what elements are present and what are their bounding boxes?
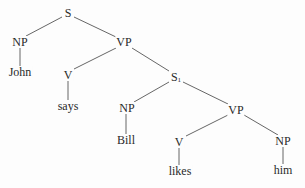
node-label: NP: [119, 101, 134, 115]
node-label: NP: [12, 35, 27, 49]
tree-node-says: says: [57, 100, 80, 112]
tree-edge-VP2-V2: [186, 115, 228, 136]
tree-node-NP2: NP: [118, 102, 135, 114]
tree-node-likes: likes: [168, 165, 193, 177]
tree-node-VP1: VP: [115, 36, 132, 48]
node-label: likes: [169, 164, 192, 178]
node-label: VP: [228, 103, 243, 117]
tree-node-NP3: NP: [274, 135, 291, 147]
node-subscript: 1: [178, 76, 182, 84]
tree-node-NP1: NP: [11, 36, 28, 48]
node-label: him: [274, 163, 293, 177]
node-label: S: [171, 70, 178, 84]
node-label: John: [9, 65, 32, 79]
tree-edges: [0, 0, 305, 188]
tree-node-John: John: [8, 66, 33, 78]
tree-node-V1: V: [63, 69, 74, 81]
tree-node-S1: S1: [170, 71, 182, 84]
tree-edge-S1-NP2: [134, 82, 169, 102]
node-label: NP: [275, 134, 290, 148]
syntax-tree: SNPVPJohnVS1saysNPVPBillVNPlikeshim: [0, 0, 305, 188]
tree-edge-VP1-S1: [132, 48, 169, 71]
node-label: says: [58, 99, 79, 113]
tree-edge-S1-VP2: [183, 82, 228, 104]
tree-edge-VP2-NP3: [244, 115, 278, 135]
node-label: V: [175, 135, 184, 149]
tree-edge-S-VP1: [74, 17, 116, 37]
tree-node-him: him: [273, 164, 294, 176]
tree-edge-S-NP1: [26, 17, 62, 36]
node-label: Bill: [117, 133, 135, 147]
tree-edge-VP1-V1: [74, 48, 116, 69]
tree-node-S: S: [64, 7, 73, 19]
tree-node-V2: V: [174, 136, 185, 148]
node-label: VP: [116, 35, 131, 49]
node-label: V: [64, 68, 73, 82]
node-label: S: [65, 6, 72, 20]
tree-node-VP2: VP: [227, 104, 244, 116]
tree-node-Bill: Bill: [116, 134, 136, 146]
